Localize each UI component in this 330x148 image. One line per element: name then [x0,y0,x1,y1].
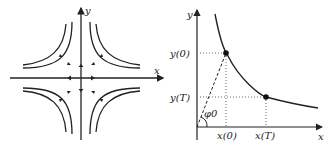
x-axis-label: x [318,131,324,142]
hyperbola-plot [197,10,322,140]
figure: y x y x y(0) y(T) x(0) x(T) φ0 [0,0,330,148]
saddle-portrait [10,8,163,140]
angle-label: φ0 [204,108,218,119]
y-axis-label: y [186,9,193,20]
yT-label: y(T) [169,92,190,103]
point-start [223,50,229,56]
y-axis-label: y [84,5,91,16]
x0-label: x(0) [217,130,237,141]
trajectory-q1-inner [90,22,140,68]
point-end [263,94,269,100]
trajectory-q4-inner [90,88,140,134]
trajectory-q2-inner [23,22,72,68]
xT-label: x(T) [255,130,275,141]
trajectory-q3-inner [23,88,72,134]
x-axis-label: x [154,65,160,76]
y0-label: y(0) [169,48,190,59]
hyperbola-curve [215,14,318,108]
